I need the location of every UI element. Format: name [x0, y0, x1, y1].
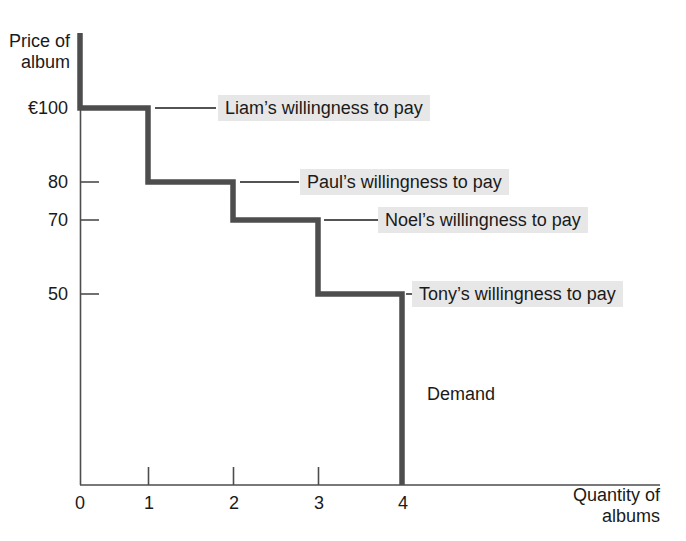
x-tick-label-1: 1: [134, 494, 164, 512]
y-axis-title-line-1: Price of: [0, 31, 70, 52]
y-tick-label-70: 70: [0, 211, 68, 229]
chart-canvas: [0, 0, 686, 541]
callout-tony-willingness: Tony’s willingness to pay: [412, 281, 623, 307]
y-axis-title-line-2: album: [0, 52, 70, 73]
y-tick-label-100: €100: [0, 99, 68, 117]
y-axis-title: Price of album: [0, 31, 70, 73]
x-tick-label-0: 0: [65, 494, 95, 512]
callout-liam-willingness: Liam’s willingness to pay: [218, 95, 430, 121]
x-tick-label-2: 2: [219, 494, 249, 512]
x-axis-title: Quantity of albums: [450, 485, 660, 527]
y-tick-label-80: 80: [0, 173, 68, 191]
x-axis-title-line-2: albums: [450, 506, 660, 527]
curve-label-demand: Demand: [427, 384, 495, 405]
x-tick-label-3: 3: [304, 494, 334, 512]
x-tick-label-4: 4: [388, 494, 418, 512]
y-tick-label-50: 50: [0, 285, 68, 303]
callout-noel-willingness: Noel’s willingness to pay: [378, 207, 588, 233]
callout-paul-willingness: Paul’s willingness to pay: [300, 169, 509, 195]
demand-curve-chart: Price of album Quantity of albums €100 8…: [0, 0, 686, 541]
x-axis-title-line-1: Quantity of: [450, 485, 660, 506]
